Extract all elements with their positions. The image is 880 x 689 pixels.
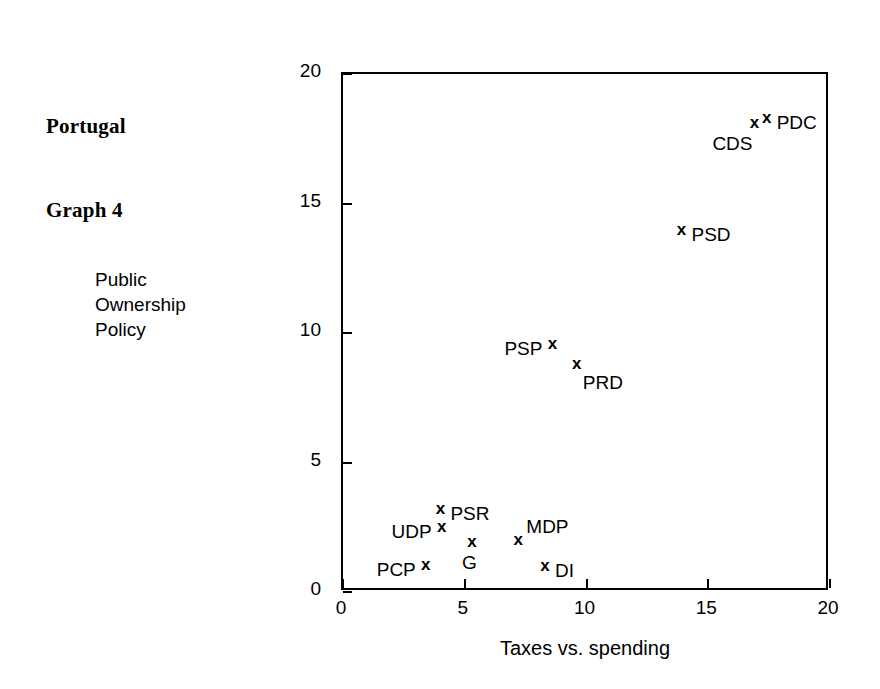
data-point-label: G: [462, 553, 477, 572]
scatter-plot-figure: Portugal Graph 4 Public Ownership Policy…: [0, 0, 880, 689]
x-axis-tick: [464, 579, 466, 588]
y-axis-tick: [343, 462, 352, 464]
x-axis-tick-label: 0: [321, 597, 361, 619]
y-axis-tick: [343, 203, 352, 205]
y-axis-tick-label: 15: [271, 190, 321, 212]
data-point-label: PCP: [377, 560, 416, 579]
x-axis-tick-label: 5: [443, 597, 483, 619]
data-point-label: DI: [555, 561, 574, 580]
figure-title-line-2: Graph 4: [46, 196, 126, 224]
cross-marker-icon: x: [675, 224, 687, 236]
x-axis-label: Taxes vs. spending: [341, 637, 829, 660]
data-point-label: UDP: [391, 522, 431, 541]
data-point-label: PSP: [504, 339, 542, 358]
y-axis-tick-label: 10: [271, 319, 321, 341]
y-axis-label-line-1: Public: [95, 267, 186, 292]
cross-marker-icon: x: [434, 503, 446, 515]
plot-area: xPDCxCDSxPSDxPSPxPRDxPSRxUDPxMDPxGxPCPxD…: [341, 72, 828, 590]
x-axis-tick: [707, 579, 709, 588]
data-point-label: PSD: [691, 225, 730, 244]
figure-title: Portugal Graph 4: [46, 56, 126, 280]
cross-marker-icon: x: [420, 559, 432, 571]
cross-marker-icon: x: [749, 117, 761, 129]
x-axis-tick-label: 15: [686, 597, 726, 619]
y-axis-tick: [343, 591, 352, 593]
data-point-label: MDP: [526, 517, 568, 536]
y-axis-tick: [343, 73, 352, 75]
x-axis-tick: [586, 579, 588, 588]
y-axis-label: Public Ownership Policy: [95, 267, 186, 342]
y-axis-label-line-3: Policy: [95, 317, 186, 342]
x-axis-tick-label: 20: [808, 597, 848, 619]
cross-marker-icon: x: [512, 534, 524, 546]
cross-marker-icon: x: [539, 560, 551, 572]
cross-marker-icon: x: [546, 338, 558, 350]
data-point-label: CDS: [712, 134, 752, 153]
cross-marker-icon: x: [571, 358, 583, 370]
cross-marker-icon: x: [436, 521, 448, 533]
y-axis-label-line-2: Ownership: [95, 292, 186, 317]
figure-title-line-1: Portugal: [46, 112, 126, 140]
cross-marker-icon: x: [761, 112, 773, 124]
y-axis-tick-label: 5: [271, 449, 321, 471]
x-axis-tick: [829, 579, 831, 588]
data-point-label: PDC: [777, 113, 817, 132]
cross-marker-icon: x: [466, 536, 478, 548]
x-axis-tick-label: 10: [565, 597, 605, 619]
y-axis-tick: [343, 332, 352, 334]
data-point-label: PSR: [450, 504, 489, 523]
x-axis-tick: [342, 579, 344, 588]
data-point-label: PRD: [583, 373, 623, 392]
y-axis-tick-label: 20: [271, 60, 321, 82]
y-axis-tick-label: 0: [271, 578, 321, 600]
